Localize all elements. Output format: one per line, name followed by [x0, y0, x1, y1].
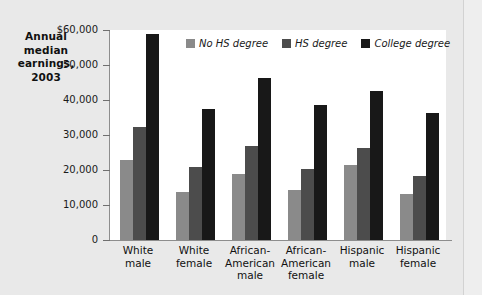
bar[interactable]	[189, 167, 202, 241]
x-axis-label: Whitefemale	[166, 243, 222, 291]
bar[interactable]	[202, 109, 215, 240]
bar[interactable]	[357, 148, 370, 240]
y-axis-tick-label: $60,000	[38, 25, 98, 35]
y-axis-tick-label: 40,000	[38, 95, 98, 105]
x-axis-label-line: female	[278, 269, 334, 282]
x-axis-label: Whitemale	[110, 243, 166, 291]
y-axis-tick-label: 20,000	[38, 165, 98, 175]
y-axis-tick	[103, 170, 110, 171]
y-axis-tick-label: 30,000	[38, 130, 98, 140]
y-axis-title: Annual median earnings, 2003	[2, 30, 90, 84]
x-axis-label-line: male	[334, 257, 390, 270]
y-axis-tick	[103, 205, 110, 206]
bar[interactable]	[314, 105, 327, 240]
x-axis-labels: WhitemaleWhitefemaleAfrican-Americanmale…	[110, 243, 446, 291]
bar[interactable]	[400, 194, 413, 240]
bar[interactable]	[133, 127, 146, 240]
y-axis-title-line: median	[2, 44, 90, 58]
bar[interactable]	[344, 165, 357, 240]
bar-group	[390, 30, 446, 240]
bar-group	[334, 30, 390, 240]
bar-group	[166, 30, 222, 240]
y-axis-tick	[103, 30, 110, 31]
page-gutter	[463, 0, 482, 295]
bar[interactable]	[245, 146, 258, 240]
x-axis-label: Hispanicfemale	[390, 243, 446, 291]
x-axis-label-line: female	[390, 257, 446, 270]
y-axis-tick	[103, 65, 110, 66]
x-axis-label-line: male	[110, 257, 166, 270]
y-axis-tick	[103, 100, 110, 101]
x-axis-label-line: female	[166, 257, 222, 270]
bar[interactable]	[288, 190, 301, 240]
chart-figure: Annual median earnings, 2003 $60,00050,0…	[0, 0, 482, 295]
y-axis-tick	[103, 135, 110, 136]
y-axis-tick	[103, 240, 110, 241]
x-axis-label-line: male	[222, 269, 278, 282]
bar[interactable]	[176, 192, 189, 240]
bar-group	[278, 30, 334, 240]
bar-groups	[110, 30, 446, 240]
x-axis-label-line: Hispanic	[390, 244, 446, 257]
x-axis-line	[103, 240, 452, 241]
bar[interactable]	[146, 34, 159, 241]
bar[interactable]	[120, 160, 133, 241]
x-axis-label-line: White	[110, 244, 166, 257]
bar[interactable]	[370, 91, 383, 240]
bar-group	[222, 30, 278, 240]
x-axis-label-line: African-	[222, 244, 278, 257]
bar[interactable]	[258, 78, 271, 240]
y-axis-title-line: 2003	[2, 71, 90, 85]
x-axis-label: African-Americanmale	[222, 243, 278, 291]
x-axis-label-line: White	[166, 244, 222, 257]
bar[interactable]	[301, 169, 314, 240]
x-axis-label-line: African-	[278, 244, 334, 257]
x-axis-label-line: American	[222, 257, 278, 270]
bar[interactable]	[426, 113, 439, 240]
x-axis-label-line: American	[278, 257, 334, 270]
y-axis-tick-label: 50,000	[38, 60, 98, 70]
bar-group	[110, 30, 166, 240]
y-axis-tick-label: 0	[38, 235, 98, 245]
x-axis-label: African-Americanfemale	[278, 243, 334, 291]
x-axis-label-line: Hispanic	[334, 244, 390, 257]
bar[interactable]	[232, 174, 245, 241]
x-axis-label: Hispanicmale	[334, 243, 390, 291]
bar[interactable]	[413, 176, 426, 240]
y-axis-tick-label: 10,000	[38, 200, 98, 210]
